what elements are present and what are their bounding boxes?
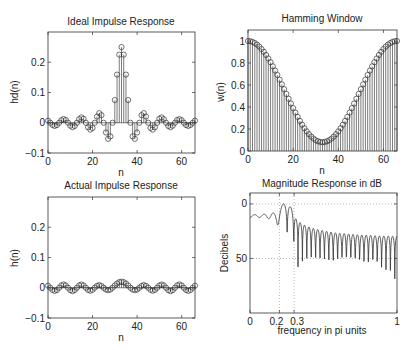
- plot-area: 00.20.31050: [236, 193, 400, 327]
- x-tick-label: 20: [87, 156, 99, 167]
- x-tick-label: 40: [333, 154, 345, 165]
- axes-frame: [48, 197, 195, 318]
- y-tick-label: 0.1: [31, 87, 45, 98]
- y-tick-label: 0.4: [231, 102, 245, 113]
- y-tick-label: 0.6: [231, 80, 245, 91]
- y-tick-label: −0.1: [25, 148, 45, 159]
- x-tick-label: 0.2: [269, 316, 283, 327]
- x-tick-label: 1: [394, 316, 400, 327]
- plot-area: 0204060−0.100.10.2: [25, 32, 197, 167]
- x-tick-label: 60: [378, 154, 390, 165]
- panel-title: Ideal Impulse Response: [67, 16, 175, 27]
- x-tick-label: 20: [288, 154, 300, 165]
- x-axis-label: n: [319, 165, 325, 176]
- figure: Ideal Impulse Response hd(n) n 0204060−0…: [0, 0, 411, 350]
- y-tick-label: 50: [236, 253, 248, 264]
- y-tick-label: 0.1: [31, 252, 45, 263]
- y-tick-label: 0.2: [31, 57, 45, 68]
- x-axis-label: n: [118, 332, 124, 343]
- panel-hamming-window: Hamming Window w(n) n 020406000.20.40.60…: [215, 13, 400, 176]
- x-tick-label: 0.3: [290, 316, 304, 327]
- panel-magnitude-response: Magnitude Response in dB Decibels freque…: [219, 178, 400, 336]
- x-tick-label: 0: [45, 156, 51, 167]
- x-tick-label: 60: [176, 321, 188, 332]
- x-tick-label: 0: [245, 154, 251, 165]
- x-tick-label: 20: [87, 321, 99, 332]
- y-axis-label: h(n): [9, 249, 20, 267]
- y-tick-label: 1: [239, 36, 245, 47]
- x-tick-label: 60: [176, 156, 188, 167]
- panel-title: Magnitude Response in dB: [262, 178, 382, 189]
- x-tick-label: 40: [132, 321, 144, 332]
- x-tick-label: 0: [45, 321, 51, 332]
- panel-title: Hamming Window: [281, 13, 363, 24]
- y-tick-label: 0.2: [231, 124, 245, 135]
- y-axis-label: Decibels: [219, 234, 230, 272]
- y-axis-label: hd(n): [9, 80, 20, 103]
- x-tick-label: 0: [247, 316, 253, 327]
- y-tick-label: 0.2: [31, 222, 45, 233]
- axes-frame: [250, 193, 397, 313]
- y-tick-label: 0: [241, 198, 247, 209]
- y-axis-label: w(n): [215, 82, 226, 102]
- y-tick-label: 0: [39, 117, 45, 128]
- panel-actual-impulse-response: Actual Impulse Response h(n) n 0204060−0…: [9, 180, 198, 343]
- x-axis-label: n: [118, 167, 124, 178]
- panel-title: Actual Impulse Response: [64, 180, 178, 191]
- y-tick-label: 0.8: [231, 58, 245, 69]
- panel-ideal-impulse-response: Ideal Impulse Response hd(n) n 0204060−0…: [9, 16, 198, 178]
- x-tick-label: 40: [132, 156, 144, 167]
- magnitude-curve: [250, 204, 397, 279]
- y-tick-label: 0: [239, 146, 245, 157]
- y-tick-label: 0: [39, 282, 45, 293]
- plot-area: 020406000.20.40.60.81: [231, 30, 400, 165]
- plot-area: 0204060−0.100.10.2: [25, 197, 197, 332]
- y-tick-label: −0.1: [25, 313, 45, 324]
